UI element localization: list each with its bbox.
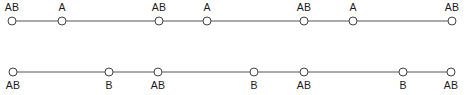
- locus-node[interactable]: [399, 68, 407, 76]
- locus-label: B: [399, 80, 406, 91]
- locus-label: B: [105, 80, 112, 91]
- chromosome-row-2: [9, 68, 455, 76]
- locus-node[interactable]: [9, 68, 17, 76]
- locus-node[interactable]: [448, 17, 456, 25]
- locus-node[interactable]: [58, 17, 66, 25]
- locus-label: A: [349, 2, 356, 13]
- locus-node[interactable]: [154, 68, 162, 76]
- locus-node[interactable]: [203, 17, 211, 25]
- locus-node[interactable]: [447, 68, 455, 76]
- chromosome-row-1: [8, 17, 456, 25]
- locus-label: AB: [152, 2, 166, 13]
- locus-node[interactable]: [300, 68, 308, 76]
- locus-node[interactable]: [8, 17, 16, 25]
- locus-node[interactable]: [250, 68, 258, 76]
- locus-node[interactable]: [349, 17, 357, 25]
- locus-label: AB: [5, 2, 19, 13]
- locus-label: B: [250, 80, 257, 91]
- locus-label: A: [203, 2, 210, 13]
- diagram-canvas: ABAABAABAABABBABBABBAB: [0, 0, 466, 95]
- locus-label: AB: [297, 80, 311, 91]
- diagram-svg: [0, 0, 466, 95]
- locus-node[interactable]: [300, 17, 308, 25]
- locus-label: AB: [6, 80, 20, 91]
- locus-label: AB: [444, 80, 458, 91]
- locus-node[interactable]: [155, 17, 163, 25]
- locus-label: AB: [151, 80, 165, 91]
- locus-node[interactable]: [105, 68, 113, 76]
- locus-label: A: [58, 2, 65, 13]
- locus-label: AB: [445, 2, 459, 13]
- locus-label: AB: [297, 2, 311, 13]
